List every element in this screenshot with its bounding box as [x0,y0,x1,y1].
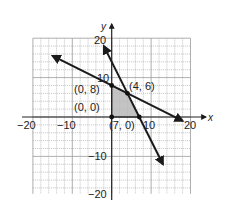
x-tick-20: 20 [184,119,196,131]
vertex-point [137,115,142,120]
y-tick-20: 20 [94,34,106,46]
linear-programming-graph: x y −20 −10 10 20 20 10 −10 −20 (0, 8) (… [0,0,234,202]
x-tick-neg10: −10 [57,119,76,131]
vertex-point [109,83,114,88]
y-axis-label: y [100,21,107,32]
x-tick-10: 10 [143,119,155,131]
y-tick-neg20: −20 [88,188,107,200]
point-label-7-0: (7, 0) [109,119,135,131]
x-tick-neg20: −20 [17,119,36,131]
y-tick-neg10: −10 [88,150,107,162]
point-label-4-6: (4, 6) [129,80,155,92]
point-label-0-0: (0, 0) [74,101,100,113]
point-label-0-8: (0, 8) [74,83,100,95]
x-axis-label: x [207,112,214,123]
